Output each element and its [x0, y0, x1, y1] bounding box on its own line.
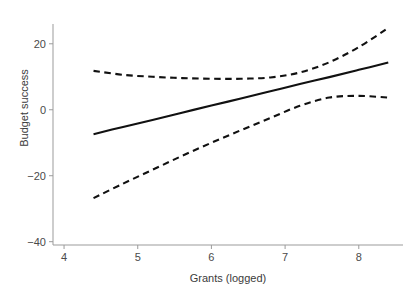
y-tick-marks — [49, 44, 53, 242]
y-tick-label: −40 — [10, 236, 46, 247]
x-tick-label: 4 — [61, 252, 67, 263]
y-axis-title: Budget success — [18, 48, 30, 168]
lower-confidence-band-path — [94, 96, 389, 198]
x-tick-label: 7 — [282, 252, 288, 263]
chart-figure: 200−20−40 45678 Budget success Grants (l… — [0, 0, 415, 295]
regression-fit-line-path — [94, 63, 389, 135]
x-axis-title: Grants (logged) — [53, 272, 403, 284]
x-tick-label: 8 — [356, 252, 362, 263]
upper-confidence-band-path — [94, 28, 389, 79]
y-tick-label: −20 — [10, 170, 46, 181]
series-group — [94, 28, 389, 198]
x-tick-label: 5 — [135, 252, 141, 263]
x-tick-label: 6 — [208, 252, 214, 263]
x-tick-marks — [64, 245, 359, 249]
